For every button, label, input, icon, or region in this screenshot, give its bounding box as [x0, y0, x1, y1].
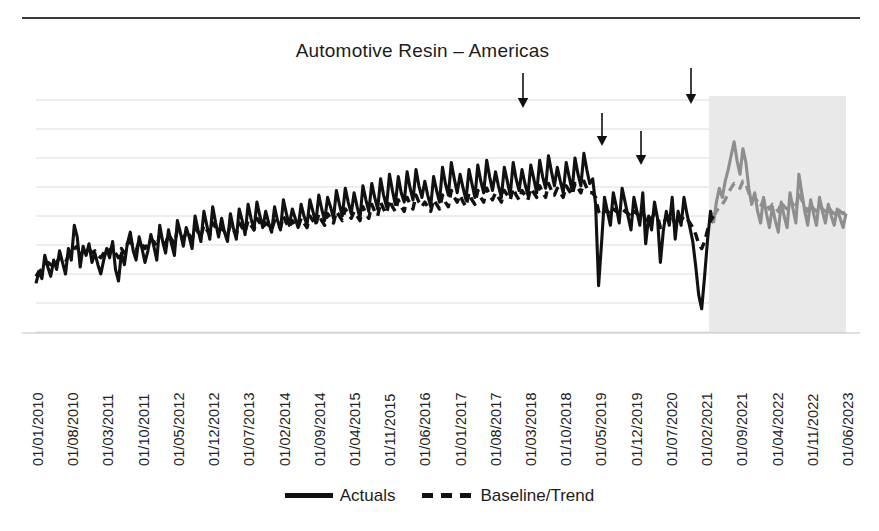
arrow-down-icon — [686, 68, 696, 104]
legend-swatch-dashed-line-icon — [422, 493, 474, 498]
arrow-annotations — [518, 68, 696, 165]
series-line-actuals — [36, 153, 714, 308]
chart-legend: Actuals Baseline/Trend — [0, 487, 879, 504]
arrow-down-icon — [518, 73, 528, 108]
chart-plot-area — [0, 0, 879, 531]
arrow-down-icon — [636, 131, 646, 165]
legend-label-baseline-trend: Baseline/Trend — [481, 487, 595, 504]
legend-item-actuals[interactable]: Actuals — [285, 487, 396, 504]
chart-figure: Automotive Resin – Americas 01/01/201001… — [0, 0, 879, 531]
legend-label-actuals: Actuals — [340, 487, 396, 504]
legend-swatch-solid-line-icon — [285, 493, 333, 498]
legend-item-baseline-trend[interactable]: Baseline/Trend — [422, 487, 595, 504]
